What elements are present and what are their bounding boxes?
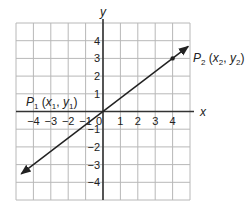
- series: [21, 46, 188, 173]
- labels: P1 (x1, y1)P2 (x2, y2): [26, 51, 244, 110]
- point-label-p2: P2 (x2, y2): [193, 51, 244, 67]
- x-tick-label: −3: [45, 115, 58, 127]
- y-tick-label: 1: [94, 88, 100, 100]
- y-tick-label: −4: [87, 176, 100, 188]
- x-tick-label: −2: [62, 115, 75, 127]
- x-tick-label: 3: [152, 115, 158, 127]
- point-label-p1: P1 (x1, y1): [26, 95, 77, 111]
- series-line: [21, 46, 188, 173]
- y-tick-label: 4: [94, 35, 100, 47]
- y-tick-label: 3: [94, 52, 100, 64]
- x-tick-label: 2: [135, 115, 141, 127]
- y-tick-label: −3: [87, 159, 100, 171]
- x-tick-label: −4: [27, 115, 40, 127]
- x-tick-label: 1: [117, 115, 123, 127]
- x-axis-label: x: [199, 105, 207, 119]
- y-axis-label: y: [99, 5, 107, 19]
- point-p2: [170, 56, 174, 60]
- y-tick-label: −2: [87, 141, 100, 153]
- y-tick-label: 2: [94, 70, 100, 82]
- y-tick-label: −1: [87, 123, 100, 135]
- x-tick-label: 4: [170, 115, 176, 127]
- coordinate-plane: xy−4−3−2−101234−4−3−2−11234 P1 (x1, y1)P…: [0, 0, 252, 211]
